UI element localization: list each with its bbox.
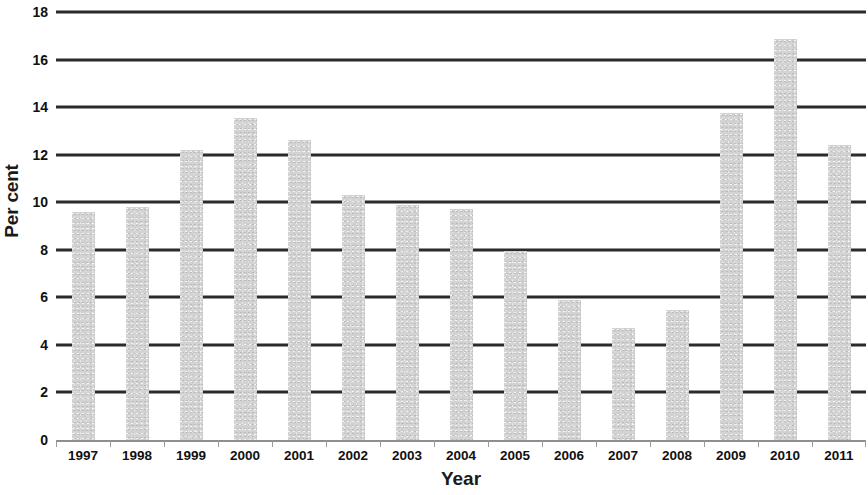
x-axis-tick (542, 440, 543, 447)
x-axis-tick (110, 440, 111, 447)
bar (828, 145, 851, 440)
plot-area (56, 12, 866, 440)
x-axis-tick (596, 440, 597, 447)
x-axis-tick-label: 2001 (272, 448, 326, 463)
bar-series (56, 12, 866, 440)
x-axis-tick-label: 2003 (380, 448, 434, 463)
bar (558, 300, 581, 440)
x-axis-tick (812, 440, 813, 447)
x-axis-tick-label: 2010 (758, 448, 812, 463)
x-axis-tick-label: 2005 (488, 448, 542, 463)
y-axis-tick-label: 8 (14, 242, 48, 258)
x-axis-tick (164, 440, 165, 447)
y-axis-tick-label: 4 (14, 337, 48, 353)
x-axis-tick (434, 440, 435, 447)
bar (450, 209, 473, 440)
x-axis-tick-label: 2002 (326, 448, 380, 463)
y-axis-tick-label: 12 (14, 147, 48, 163)
x-axis-tick (218, 440, 219, 447)
x-axis-tick-label: 1997 (56, 448, 110, 463)
x-axis-tick (488, 440, 489, 447)
x-axis-tick-label: 2007 (596, 448, 650, 463)
x-axis-tick-label: 1998 (110, 448, 164, 463)
y-axis-tick-label: 2 (14, 384, 48, 400)
bar (504, 251, 527, 440)
x-axis-tick-label: 2004 (434, 448, 488, 463)
bar (774, 39, 797, 440)
bar (288, 140, 311, 440)
x-axis-title: Year (56, 468, 866, 490)
x-axis-tick (56, 440, 57, 447)
y-axis-tick-labels: 024681012141618 (0, 0, 48, 495)
x-axis-tick-label: 2000 (218, 448, 272, 463)
x-axis-tick (865, 440, 866, 447)
x-axis-tick (704, 440, 705, 447)
y-axis-tick-label: 16 (14, 52, 48, 68)
x-axis-tick (326, 440, 327, 447)
y-axis-tick-label: 6 (14, 289, 48, 305)
bar (126, 207, 149, 440)
x-axis-tick-label: 2006 (542, 448, 596, 463)
bar (234, 118, 257, 440)
y-axis-tick-label: 0 (14, 432, 48, 448)
bar (720, 113, 743, 440)
x-axis-tick-label: 2008 (650, 448, 704, 463)
x-axis-ticks (56, 440, 866, 448)
y-axis-tick-label: 10 (14, 194, 48, 210)
bar (612, 328, 635, 440)
x-axis-tick (380, 440, 381, 447)
bar (666, 310, 689, 440)
bar (72, 212, 95, 440)
x-axis-tick-labels: 1997199819992000200120022003200420052006… (56, 448, 866, 470)
bar (342, 195, 365, 440)
x-axis-tick (758, 440, 759, 447)
x-axis-tick-label: 2009 (704, 448, 758, 463)
x-axis-tick-label: 1999 (164, 448, 218, 463)
y-axis-tick-label: 18 (14, 4, 48, 20)
x-axis-tick (650, 440, 651, 447)
bar (180, 150, 203, 440)
bar (396, 205, 419, 440)
x-axis-tick-label: 2011 (812, 448, 866, 463)
bar-chart: Per cent 024681012141618 199719981999200… (0, 0, 868, 495)
y-axis-tick-label: 14 (14, 99, 48, 115)
x-axis-tick (272, 440, 273, 447)
